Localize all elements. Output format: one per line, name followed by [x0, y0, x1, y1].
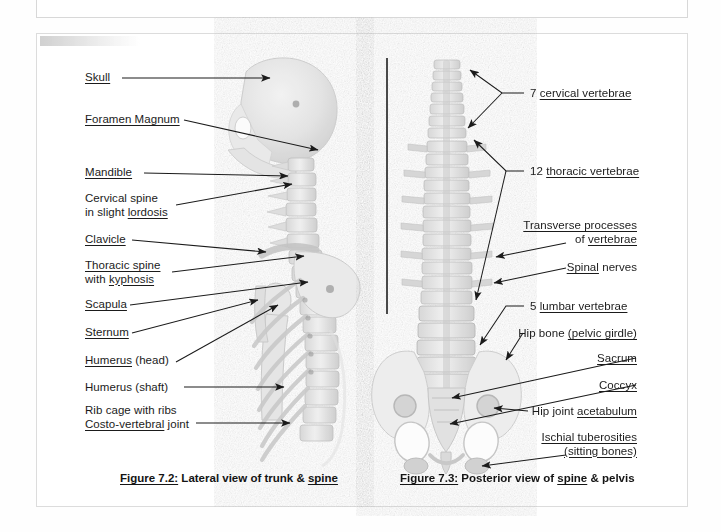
label-skull: Skull: [85, 71, 110, 85]
label-thoracic-vertebrae: 12 thoracic vertebrae: [530, 165, 639, 179]
label-humerus-head: Humerus (head): [85, 354, 169, 368]
label-mandible: Mandible: [85, 166, 132, 180]
label-humerus-shaft: Humerus (shaft): [85, 381, 168, 395]
label-spinal-nerves: Spinal nerves: [447, 261, 637, 275]
label-clavicle: Clavicle: [85, 233, 126, 247]
label-hip-bone: Hip bone (pelvic girdle): [447, 327, 637, 341]
scan-artifact-smudge: [40, 36, 140, 46]
label-rib-cage: Rib cage with ribs Costo-vertebral joint: [85, 404, 189, 431]
figure-divider-line: [386, 58, 388, 314]
label-lumbar-vertebrae: 5 lumbar vertebrae: [530, 300, 627, 314]
label-transverse-processes: Transverse processes of vertebrae: [447, 219, 637, 246]
label-ischial-tuberosities: Ischial tuberosities (sitting bones): [447, 431, 637, 458]
caption-figure-7-2: Figure 7.2: Lateral view of trunk & spin…: [120, 472, 338, 484]
document-page: Skull Foramen Magnum Mandible Cervical s…: [0, 0, 721, 532]
label-sacrum: Sacrum: [447, 352, 637, 366]
label-coccyx: Coccyx: [447, 379, 637, 393]
label-cervical-vertebrae: 7 cervical vertebrae: [530, 87, 631, 101]
label-hip-joint-acetabulum: Hip joint acetabulum: [447, 405, 637, 419]
label-cervical-spine: Cervical spine in slight lordosis: [85, 192, 168, 219]
label-scapula: Scapula: [85, 298, 127, 312]
label-thoracic-spine: Thoracic spine with kyphosis: [85, 259, 160, 286]
caption-figure-7-3: Figure 7.3: Posterior view of spine & pe…: [400, 472, 635, 484]
label-sternum: Sternum: [85, 326, 129, 340]
label-foramen-magnum: Foramen Magnum: [85, 113, 180, 127]
upper-content-box: [36, 0, 688, 18]
